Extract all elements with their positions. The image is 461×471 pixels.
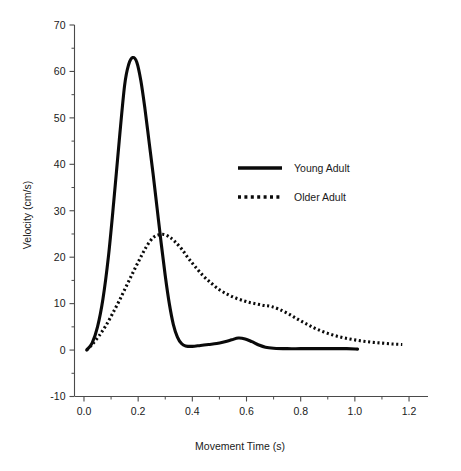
y-tick-label: 50 <box>54 112 66 124</box>
chart-legend: Young Adult Older Adult <box>238 162 350 203</box>
y-tick-label: 60 <box>54 65 66 77</box>
x-tick-label: 0.2 <box>131 405 146 417</box>
x-axis: 0.00.20.40.60.81.01.2 <box>77 397 417 417</box>
velocity-profile-figure: 706050403020100-10 0.00.20.40.60.81.01.2… <box>0 0 461 471</box>
x-tick-label: 0.4 <box>185 405 200 417</box>
y-tick-label: 30 <box>54 205 66 217</box>
x-tick-label: 1.0 <box>348 405 363 417</box>
series-line-young-adult <box>87 57 358 350</box>
chart-canvas: 706050403020100-10 0.00.20.40.60.81.01.2… <box>0 0 461 471</box>
legend-entry-older-adult: Older Adult <box>238 191 346 203</box>
y-tick-label: 0 <box>60 344 66 356</box>
x-tick-label: 0.8 <box>293 405 308 417</box>
legend-entry-young-adult: Young Adult <box>238 162 350 174</box>
x-tick-label: 0.0 <box>77 405 92 417</box>
legend-label-young-adult: Young Adult <box>294 162 350 174</box>
y-tick-label: 70 <box>54 19 66 31</box>
y-axis: 706050403020100-10 <box>50 19 74 403</box>
legend-label-older-adult: Older Adult <box>294 191 346 203</box>
x-axis-title: Movement Time (s) <box>195 440 285 452</box>
y-axis-title: Velocity (cm/s) <box>21 181 33 249</box>
y-tick-label: 20 <box>54 251 66 263</box>
y-tick-label: 40 <box>54 158 66 170</box>
data-series-group <box>87 57 403 350</box>
y-tick-label: -10 <box>50 390 65 402</box>
x-tick-label: 0.6 <box>239 405 254 417</box>
x-tick-label: 1.2 <box>402 405 417 417</box>
series-line-older-adult <box>87 234 403 350</box>
y-tick-label: 10 <box>54 297 66 309</box>
